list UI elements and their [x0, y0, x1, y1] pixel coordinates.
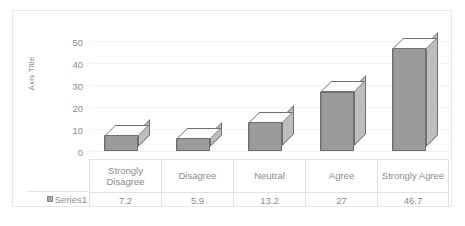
bar-side-face [426, 32, 438, 147]
y-axis-tick-20: 20 [61, 104, 83, 114]
plot-area: Axis Title 50 40 30 20 10 0 [13, 11, 453, 159]
y-axis-tick-10: 10 [61, 126, 83, 136]
bar-strongly-agree[interactable] [392, 11, 435, 159]
y-axis-tick-40: 40 [61, 60, 83, 70]
bar-front-face [176, 138, 210, 151]
bar-disagree[interactable] [176, 11, 219, 159]
bar-neutral[interactable] [248, 11, 291, 159]
table-value-cell: 13.2 [233, 192, 305, 207]
bar-front-face [392, 48, 426, 151]
y-axis-tick-50: 50 [61, 38, 83, 48]
bar-inner-edge [105, 135, 106, 151]
table-value-cell: 7.2 [89, 192, 161, 207]
bar-front-face [104, 135, 138, 151]
table-header-cell: Strongly Disagree [89, 160, 161, 192]
bar-inner-edge [249, 122, 250, 151]
table-value-cell: 27 [305, 192, 377, 207]
bar-inner-edge [393, 48, 394, 151]
bar-agree[interactable] [320, 11, 363, 159]
y-axis-tick-0: 0 [61, 148, 83, 158]
y-axis-title: Axis Title [27, 39, 36, 109]
table-header-cell: Strongly Agree [377, 160, 449, 192]
table-header-cell: Neutral [233, 160, 305, 192]
table-value-cell: 5.9 [161, 192, 233, 207]
bar-inner-edge [321, 92, 322, 151]
bar-front-face [248, 122, 282, 151]
bar-inner-edge [177, 138, 178, 151]
table-value-cell: 46.7 [377, 192, 449, 207]
table-header-cell: Disagree [161, 160, 233, 192]
legend-key[interactable]: Series1 [27, 191, 89, 206]
table-header-cell: Agree [305, 160, 377, 192]
y-axis: 50 40 30 20 10 0 [53, 11, 83, 159]
y-axis-tick-30: 30 [61, 82, 83, 92]
bars-layer [89, 11, 449, 159]
data-table: Series1 Strongly Disagree7.2Disagree5.9N… [13, 159, 453, 207]
bar-strongly-disagree[interactable] [104, 11, 147, 159]
data-table-grid: Strongly Disagree7.2Disagree5.9Neutral13… [89, 159, 449, 206]
legend-series-label: Series1 [55, 194, 87, 205]
bar-front-face [320, 92, 354, 151]
chart-container: Axis Title 50 40 30 20 10 0 Series1 Stro… [12, 10, 452, 207]
legend-swatch-icon [47, 196, 53, 202]
